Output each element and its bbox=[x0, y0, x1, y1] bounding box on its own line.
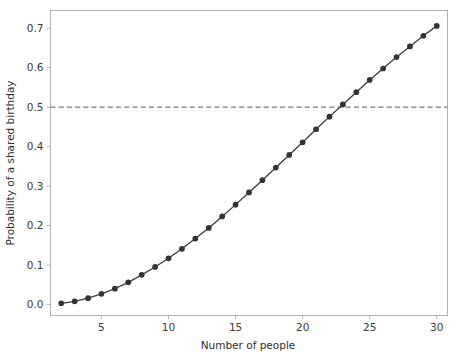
data-point-marker bbox=[179, 246, 185, 252]
data-point-marker bbox=[394, 54, 400, 60]
data-point-marker bbox=[112, 286, 118, 292]
data-point-marker bbox=[58, 300, 64, 306]
x-tick-label: 25 bbox=[363, 321, 376, 333]
data-point-marker bbox=[219, 214, 225, 220]
data-point-marker bbox=[206, 225, 212, 231]
x-axis-label: Number of people bbox=[201, 339, 296, 351]
data-point-marker bbox=[407, 44, 413, 50]
data-point-marker bbox=[166, 255, 172, 261]
x-tick-label: 15 bbox=[229, 321, 242, 333]
data-point-marker bbox=[273, 165, 279, 171]
x-tick-label: 5 bbox=[98, 321, 105, 333]
data-point-marker bbox=[139, 272, 145, 278]
x-tick-label: 10 bbox=[162, 321, 175, 333]
data-point-marker bbox=[99, 291, 105, 297]
y-tick-label: 0.5 bbox=[27, 101, 44, 113]
data-point-marker bbox=[300, 139, 306, 145]
data-point-marker bbox=[193, 236, 199, 242]
y-tick-label: 0.3 bbox=[27, 180, 44, 192]
y-tick-label: 0.0 bbox=[27, 298, 44, 310]
data-point-marker bbox=[72, 298, 78, 304]
birthday-problem-line-chart: 51015202530 0.00.10.20.30.40.50.60.7 Num… bbox=[0, 0, 459, 356]
y-tick-label: 0.4 bbox=[27, 140, 44, 152]
data-point-marker bbox=[380, 66, 386, 72]
data-point-marker bbox=[327, 114, 333, 120]
data-point-marker bbox=[152, 264, 158, 270]
data-point-marker bbox=[353, 89, 359, 95]
y-tick-label: 0.7 bbox=[27, 22, 44, 34]
y-tick-label: 0.2 bbox=[27, 219, 44, 231]
x-tick-label: 30 bbox=[430, 321, 443, 333]
chart-figure: 51015202530 0.00.10.20.30.40.50.60.7 Num… bbox=[0, 0, 459, 356]
data-point-marker bbox=[367, 77, 373, 83]
data-point-marker bbox=[125, 280, 131, 286]
data-point-marker bbox=[85, 295, 91, 301]
data-point-marker bbox=[340, 102, 346, 108]
data-point-marker bbox=[421, 33, 427, 39]
data-point-marker bbox=[286, 152, 292, 158]
data-point-marker bbox=[434, 23, 440, 29]
y-tick-label: 0.1 bbox=[27, 259, 44, 271]
x-tick-label: 20 bbox=[296, 321, 309, 333]
data-point-marker bbox=[233, 202, 239, 208]
data-point-marker bbox=[313, 126, 319, 132]
y-tick-label: 0.6 bbox=[27, 61, 44, 73]
data-point-marker bbox=[260, 177, 266, 183]
y-axis-label: Probability of a shared birthday bbox=[4, 80, 16, 245]
data-point-marker bbox=[246, 190, 252, 196]
